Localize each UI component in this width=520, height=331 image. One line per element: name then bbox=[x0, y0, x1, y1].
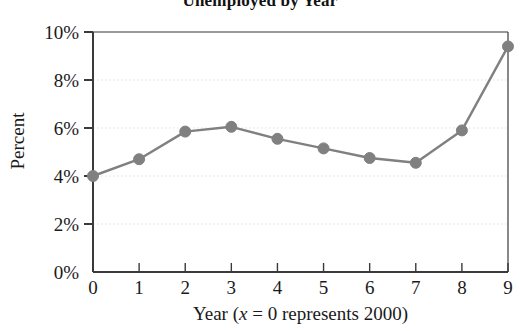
y-tick-label: 4% bbox=[54, 166, 80, 187]
data-point-marker bbox=[180, 126, 191, 137]
data-point-marker bbox=[134, 154, 145, 165]
y-tick-label: 8% bbox=[54, 70, 80, 91]
data-point-marker bbox=[456, 125, 467, 136]
y-tick-label: 0% bbox=[54, 262, 80, 283]
x-tick-label: 8 bbox=[457, 277, 467, 298]
x-tick-label: 4 bbox=[273, 277, 283, 298]
series-polyline bbox=[93, 46, 508, 176]
x-tick-label: 2 bbox=[180, 277, 190, 298]
x-tick-label: 6 bbox=[365, 277, 375, 298]
axis-lines-group bbox=[93, 32, 508, 272]
data-point-marker bbox=[272, 133, 283, 144]
data-point-marker bbox=[226, 121, 237, 132]
data-point-marker bbox=[503, 41, 514, 52]
data-point-marker bbox=[410, 157, 421, 168]
y-tick-label: 2% bbox=[54, 214, 80, 235]
chart-page: Unemployed by Year Percent Year (x = 0 r… bbox=[0, 0, 520, 331]
x-tick-label: 0 bbox=[88, 277, 98, 298]
data-point-marker bbox=[318, 143, 329, 154]
data-series-line bbox=[93, 46, 508, 176]
x-tick-label: 9 bbox=[503, 277, 513, 298]
y-tick-label: 6% bbox=[54, 118, 80, 139]
x-tick-labels-group: 0123456789 bbox=[88, 277, 513, 298]
x-tick-label: 1 bbox=[134, 277, 144, 298]
x-tick-label: 3 bbox=[227, 277, 237, 298]
x-tick-label: 7 bbox=[411, 277, 421, 298]
y-tick-labels-group: 0%2%4%6%8%10% bbox=[44, 22, 79, 283]
x-tick-marks-group bbox=[93, 263, 508, 272]
data-point-marker bbox=[364, 153, 375, 164]
gridlines-group bbox=[93, 32, 508, 224]
y-tick-label: 10% bbox=[44, 22, 79, 43]
line-chart-plot: 0%2%4%6%8%10% 0123456789 bbox=[0, 0, 520, 331]
data-series-markers bbox=[88, 41, 514, 182]
x-tick-label: 5 bbox=[319, 277, 329, 298]
data-point-marker bbox=[88, 171, 99, 182]
y-tick-marks-group bbox=[84, 32, 93, 224]
